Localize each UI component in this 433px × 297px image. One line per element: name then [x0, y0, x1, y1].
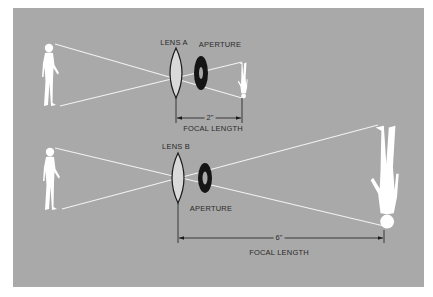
lens-b-label: LENS B	[162, 143, 190, 151]
top-scene	[42, 44, 248, 123]
lens-a-icon	[170, 48, 182, 98]
arrow-right-icon	[378, 236, 383, 240]
ray-bottom-lower	[62, 125, 378, 209]
arrow-right-icon	[236, 116, 241, 120]
focal-length-b-value: 6"	[274, 234, 285, 242]
person-figure-icon	[42, 44, 59, 106]
focal-length-a-value: 2"	[205, 114, 216, 122]
focal-length-a-label: FOCAL LENGTH	[183, 125, 243, 133]
ray-bottom-upper	[55, 148, 384, 226]
aperture-a-label: APERTURE	[199, 41, 241, 49]
lens-b-icon	[172, 153, 184, 203]
arrow-left-icon	[179, 236, 184, 240]
ray-top-lower	[60, 62, 242, 106]
inverted-image-a-icon	[238, 63, 248, 99]
focal-length-b-label: FOCAL LENGTH	[249, 249, 309, 257]
arrow-left-icon	[177, 116, 182, 120]
inverted-image-b-icon	[371, 126, 399, 229]
aperture-b-label: APERTURE	[190, 205, 232, 213]
focal-length-diagram: LENS A APERTURE 2" FOCAL LENGTH LENS B A…	[0, 0, 433, 297]
person-figure-icon	[43, 148, 60, 210]
bottom-scene	[43, 125, 399, 243]
lens-a-label: LENS A	[160, 39, 187, 47]
ray-top-upper	[55, 44, 242, 98]
